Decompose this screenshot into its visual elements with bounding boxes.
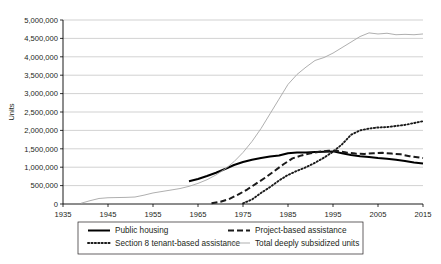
y-tick-label-500000: 500,000 — [31, 181, 58, 190]
line-chart: 0500,0001,000,0001,500,0002,000,0002,500… — [0, 0, 441, 264]
y-tick-label-4500000: 4,500,000 — [24, 34, 58, 43]
legend-label-2: Section 8 tenant-based assistance — [115, 239, 241, 248]
legend-label-3: Total deeply subsidized units — [255, 239, 359, 248]
x-tick-label-1955: 1955 — [145, 210, 162, 219]
chart-container: 0500,0001,000,0001,500,0002,000,0002,500… — [0, 0, 441, 264]
y-tick-label-3500000: 3,500,000 — [24, 71, 58, 80]
y-tick-label-5000000: 5,000,000 — [24, 16, 58, 25]
y-tick-label-2500000: 2,500,000 — [24, 108, 58, 117]
x-tick-label-2015: 2015 — [415, 210, 432, 219]
series-line-3 — [81, 33, 423, 203]
series-line-2 — [243, 121, 423, 203]
legend-label-1: Project-based assistance — [255, 226, 347, 235]
x-tick-label-1995: 1995 — [325, 210, 342, 219]
x-tick-label-1945: 1945 — [100, 210, 117, 219]
y-tick-label-1000000: 1,000,000 — [24, 163, 58, 172]
y-axis-title: Units — [7, 103, 16, 120]
y-tick-label-0: 0 — [54, 200, 58, 209]
x-tick-label-1965: 1965 — [190, 210, 207, 219]
x-tick-label-1935: 1935 — [55, 210, 72, 219]
x-tick-label-2005: 2005 — [370, 210, 387, 219]
y-tick-label-2000000: 2,000,000 — [24, 126, 58, 135]
y-tick-label-3000000: 3,000,000 — [24, 89, 58, 98]
legend-label-0: Public housing — [115, 226, 169, 235]
x-tick-label-1975: 1975 — [235, 210, 252, 219]
series-line-0 — [189, 151, 423, 181]
y-tick-label-1500000: 1,500,000 — [24, 145, 58, 154]
x-tick-label-1985: 1985 — [280, 210, 297, 219]
y-tick-label-4000000: 4,000,000 — [24, 53, 58, 62]
